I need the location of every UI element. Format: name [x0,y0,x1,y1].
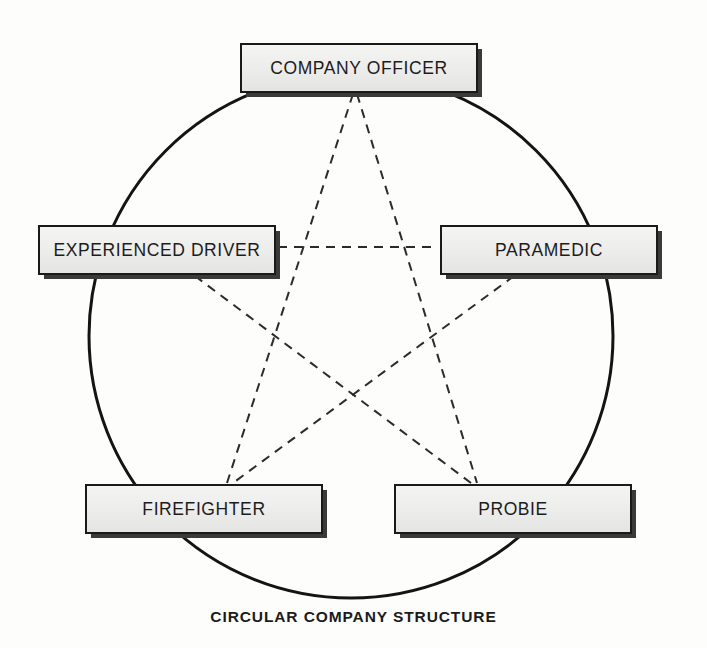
node-firefighter[interactable]: FIREFIGHTER [85,484,323,534]
node-paramedic[interactable]: PARAMEDIC [440,225,658,275]
node-label-probie: PROBIE [478,499,548,520]
diagram-graphics-layer [0,0,707,648]
diagram-caption: CIRCULAR COMPANY STRUCTURE [0,608,707,626]
node-probie[interactable]: PROBIE [394,484,632,534]
connector-links-layer [195,94,514,483]
node-label-experienced-driver: EXPERIENCED DRIVER [53,240,260,261]
link-paramedic-firefighter [233,276,514,483]
link-officer-probie [357,94,477,483]
node-label-firefighter: FIREFIGHTER [142,499,265,520]
diagram-canvas: COMPANY OFFICER EXPERIENCED DRIVER PARAM… [0,0,707,648]
node-experienced-driver[interactable]: EXPERIENCED DRIVER [38,225,276,275]
link-officer-firefighter [227,94,353,483]
node-label-company-officer: COMPANY OFFICER [270,58,448,79]
node-label-paramedic: PARAMEDIC [495,240,603,261]
node-company-officer[interactable]: COMPANY OFFICER [240,43,478,93]
